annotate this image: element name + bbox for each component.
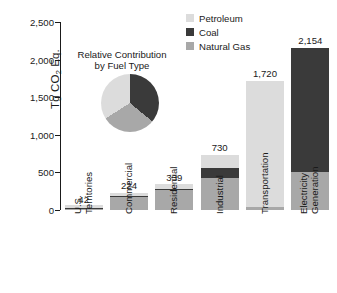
x-axis-label-u-s-territories: U.S.Territories [73, 214, 92, 225]
pie-chart-title: Relative Contribution by Fuel Type [62, 49, 182, 71]
x-axis-label-line: Territories [84, 172, 95, 214]
x-axis-label-line: Commercial [124, 163, 135, 214]
relative-contribution-pie-chart [101, 74, 159, 132]
y-axis-tick-mark [55, 172, 60, 173]
legend-label: Petroleum [199, 13, 243, 24]
y-axis-tick-label: 2,500 [8, 17, 54, 28]
pie-title-line-1: Relative Contribution [77, 49, 166, 60]
legend-swatch-icon [186, 14, 194, 22]
x-axis-label-commercial: Commercial [124, 214, 175, 225]
x-axis-label-residential: Residential [169, 214, 216, 225]
bar-segment-petroleum [201, 155, 239, 168]
legend-swatch-icon [186, 42, 194, 50]
legend-swatch-icon [186, 28, 194, 36]
x-axis-label-industrial: Industrial [215, 214, 254, 225]
emissions-stacked-bar-chart: Tg CO2 Eq. 05001,0001,5002,0002,500 4222… [0, 0, 337, 293]
y-axis-tick-mark [55, 210, 60, 211]
x-axis-label-line: Generation [310, 167, 321, 214]
x-axis-label-line: Industrial [215, 175, 226, 214]
y-axis-tick-mark [55, 60, 60, 61]
y-axis-tick-label: 500 [8, 167, 54, 178]
legend-item-coal[interactable]: Coal [186, 26, 250, 38]
bar-value-label: 2,154 [279, 35, 337, 46]
y-axis-tick-label: 0 [8, 205, 54, 216]
legend: PetroleumCoalNatural Gas [186, 12, 250, 54]
legend-label: Coal [199, 27, 219, 38]
bar-segment-coal [291, 48, 329, 172]
y-axis-tick-mark [55, 135, 60, 136]
y-axis-tick-label: 2,000 [8, 54, 54, 65]
y-axis-tick-mark [55, 97, 60, 98]
legend-item-petroleum[interactable]: Petroleum [186, 12, 250, 24]
y-axis-ticks: 05001,0001,5002,0002,500 [2, 0, 54, 293]
y-axis-tick-label: 1,500 [8, 92, 54, 103]
legend-item-natural-gas[interactable]: Natural Gas [186, 40, 250, 52]
x-axis-label-electricity-generation: ElectricityGeneration [299, 214, 337, 225]
pie-title-line-2: by Fuel Type [95, 60, 150, 71]
x-axis-label-line: U.S. [73, 195, 84, 214]
x-axis-label-line: Residential [169, 167, 180, 214]
x-axis-label-line: Transportation [260, 152, 271, 214]
legend-label: Natural Gas [199, 41, 250, 52]
y-axis-tick-label: 1,000 [8, 129, 54, 140]
y-axis-tick-mark [55, 22, 60, 23]
